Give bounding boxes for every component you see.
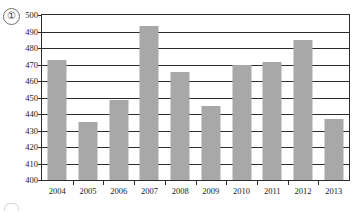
y-axis-tick-label: 410	[8, 160, 38, 169]
x-axis-tick-label: 2004	[42, 186, 73, 196]
x-axis-tick-mark	[257, 181, 258, 185]
bar-slot	[165, 15, 196, 180]
x-axis-tick-label: 2009	[196, 186, 227, 196]
x-axis-tick-mark	[73, 181, 74, 185]
bar-slot	[257, 15, 288, 180]
x-axis-tick-mark	[318, 181, 319, 185]
bar[interactable]	[79, 122, 98, 180]
bar[interactable]	[263, 62, 282, 180]
bar[interactable]	[201, 106, 220, 180]
x-axis-tick-mark	[226, 181, 227, 185]
bar[interactable]	[232, 65, 251, 181]
bar[interactable]	[171, 72, 190, 180]
y-axis-tick-label: 420	[8, 143, 38, 152]
x-axis-tick-mark	[288, 181, 289, 185]
y-axis-tick-label: 500	[8, 11, 38, 20]
y-axis-tick-label: 440	[8, 110, 38, 119]
x-axis-tick-label: 2007	[134, 186, 165, 196]
y-axis-tick-label: 490	[8, 28, 38, 37]
x-axis-tick-mark	[165, 181, 166, 185]
y-axis-tick-label: 470	[8, 61, 38, 70]
bar-slot	[103, 15, 134, 180]
y-axis-tick-label: 450	[8, 94, 38, 103]
y-axis-tick-label: 460	[8, 77, 38, 86]
x-axis-tick-label: 2006	[103, 186, 134, 196]
x-axis-tick-label: 2013	[318, 186, 349, 196]
y-axis-tick-label: 480	[8, 44, 38, 53]
x-axis-tick-mark	[196, 181, 197, 185]
x-axis-tick-label: 2005	[73, 186, 104, 196]
bar-slot	[134, 15, 165, 180]
page-artifact-mark	[4, 203, 19, 211]
bars-group	[42, 15, 349, 180]
bar-chart-figure: ① 400410420430440450460470480490500 2004…	[0, 0, 353, 212]
bar-slot	[73, 15, 104, 180]
bar[interactable]	[48, 60, 67, 180]
bar[interactable]	[109, 100, 128, 180]
x-axis-tick-mark	[103, 181, 104, 185]
bar-slot	[196, 15, 227, 180]
bar-slot	[318, 15, 349, 180]
x-axis-tick-label: 2008	[165, 186, 196, 196]
y-axis-tick-label: 430	[8, 127, 38, 136]
y-axis-tick-label: 400	[8, 176, 38, 185]
bar-slot	[288, 15, 319, 180]
bar[interactable]	[324, 119, 343, 180]
x-axis-tick-label: 2012	[288, 186, 319, 196]
x-axis-tick-label: 2011	[257, 186, 288, 196]
x-axis-tick-label: 2010	[226, 186, 257, 196]
x-axis-tick-mark	[134, 181, 135, 185]
bar-slot	[226, 15, 257, 180]
bar[interactable]	[140, 26, 159, 180]
bar-slot	[42, 15, 73, 180]
bar[interactable]	[293, 40, 312, 180]
